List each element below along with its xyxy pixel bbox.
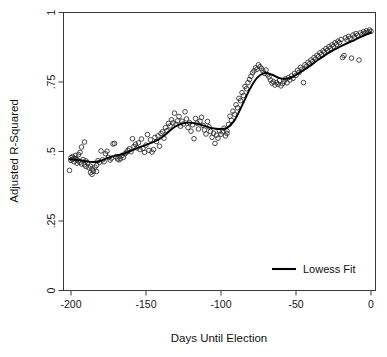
x-axis-title: Days Until Election [171, 332, 268, 344]
data-point [349, 56, 354, 61]
y-tick-label: .5 [45, 147, 57, 156]
legend-label-lowess-fit: Lowess Fit [303, 263, 356, 275]
y-tick-label: 0 [45, 287, 57, 293]
y-tick-label: .25 [45, 214, 57, 229]
data-point [199, 115, 204, 120]
x-tick-label: 0 [368, 298, 374, 310]
data-point [148, 138, 153, 143]
chart-figure: 0.25.5.751 -200-150-100-500 Days Until E… [0, 0, 387, 357]
data-point [79, 145, 84, 150]
data-point [177, 114, 182, 119]
data-point [142, 150, 147, 155]
scatter-points-layer [67, 28, 373, 177]
data-point [145, 132, 150, 137]
y-axis-ticks: 0.25.5.751 [45, 9, 63, 293]
x-tick-label: -50 [288, 298, 303, 310]
data-point [82, 140, 87, 145]
y-tick-label: .75 [45, 75, 57, 90]
data-point [99, 149, 104, 154]
data-point [192, 136, 197, 141]
x-tick-label: -150 [135, 298, 156, 310]
data-point [130, 136, 135, 141]
data-point [205, 119, 210, 124]
data-point [301, 80, 306, 85]
scatter-plot-svg: 0.25.5.751 -200-150-100-500 Days Until E… [0, 0, 387, 357]
plot-frame [64, 13, 376, 291]
data-point [94, 169, 99, 174]
x-tick-label: -200 [60, 298, 81, 310]
legend: Lowess Fit [272, 263, 356, 275]
data-point [189, 129, 194, 134]
data-point [357, 58, 362, 63]
data-point [193, 116, 198, 121]
x-axis-ticks: -200-150-100-500 [60, 291, 374, 310]
data-point [213, 141, 218, 146]
x-tick-label: -100 [210, 298, 231, 310]
data-point [139, 137, 144, 142]
data-point [172, 111, 177, 116]
data-point [183, 109, 188, 114]
data-point [157, 144, 162, 149]
y-tick-label: 1 [45, 9, 57, 15]
y-axis-title: Adjusted R-Squared [8, 99, 20, 203]
data-point [204, 132, 209, 137]
data-point [67, 168, 72, 173]
data-point [196, 127, 201, 132]
